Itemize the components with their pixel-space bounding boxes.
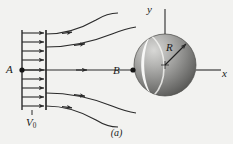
label-point-b: B [113,65,120,76]
label-radius-r: R [166,42,173,53]
label-axis-y: y [147,4,152,15]
streamline-upper-outer [46,13,118,34]
label-freestream-velocity: V0 [26,117,36,128]
figure-container: A B R x y V0 (a) [0,0,233,144]
point-a-marker [19,67,24,72]
sphere-body [134,34,196,97]
streamline-lower-outer [46,106,118,127]
label-point-a: A [6,64,13,75]
velocity-symbol: V [26,116,33,128]
figure-caption: (a) [0,128,233,138]
label-axis-x: x [222,68,227,79]
point-b-marker [130,67,135,72]
streamline-upper-mid [46,27,136,47]
streamline-lower-mid [46,93,136,113]
